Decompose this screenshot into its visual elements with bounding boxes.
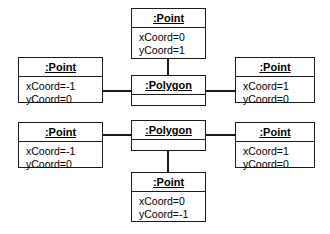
uml-object-attributes: xCoord=-1yCoord=0: [19, 142, 102, 173]
uml-object-name: :Point: [132, 9, 205, 28]
uml-object-name: :Point: [132, 173, 205, 192]
uml-object-attributes: [132, 95, 205, 107]
uml-attribute: xCoord=1: [243, 80, 314, 93]
uml-object-name-text: :Point: [153, 12, 184, 24]
association-link: [205, 134, 236, 136]
uml-object-name-text: :Polygon: [145, 79, 192, 91]
association-link: [102, 134, 132, 136]
association-link: [167, 151, 169, 173]
uml-object-point-top[interactable]: :PointxCoord=0yCoord=1: [131, 8, 206, 59]
uml-object-point-right-lower[interactable]: :PointxCoord=1yCoord=0: [235, 122, 315, 168]
uml-attribute: xCoord=0: [139, 31, 205, 44]
uml-object-diagram: :PointxCoord=0yCoord=1:PointxCoord=-1yCo…: [0, 0, 330, 234]
uml-object-name-text: :Point: [259, 126, 290, 138]
uml-attribute: xCoord=-1: [26, 145, 102, 158]
association-link: [167, 59, 169, 76]
uml-object-point-left-lower[interactable]: :PointxCoord=-1yCoord=0: [18, 122, 103, 168]
uml-object-point-right-upper[interactable]: :PointxCoord=1yCoord=0: [235, 57, 315, 103]
uml-attribute: yCoord=0: [243, 93, 314, 106]
uml-object-name-text: :Polygon: [145, 124, 192, 136]
uml-object-attributes: xCoord=1yCoord=0: [236, 142, 314, 173]
uml-object-name: :Point: [236, 123, 314, 142]
uml-object-name: :Point: [19, 58, 102, 77]
uml-object-polygon-upper[interactable]: :Polygon: [131, 75, 206, 106]
association-link: [102, 90, 132, 92]
uml-attribute: xCoord=0: [139, 195, 205, 208]
uml-object-attributes: xCoord=1yCoord=0: [236, 77, 314, 108]
uml-object-attributes: [132, 140, 205, 152]
uml-attribute: yCoord=0: [26, 93, 102, 106]
uml-attribute: xCoord=-1: [26, 80, 102, 93]
uml-object-point-bottom[interactable]: :PointxCoord=0yCoord=-1: [131, 172, 206, 222]
uml-object-name: :Polygon: [132, 121, 205, 140]
uml-object-name: :Polygon: [132, 76, 205, 95]
association-link: [205, 90, 236, 92]
uml-object-name: :Point: [19, 123, 102, 142]
uml-object-name-text: :Point: [45, 61, 76, 73]
uml-object-name-text: :Point: [45, 126, 76, 138]
uml-attribute: yCoord=0: [243, 158, 314, 171]
uml-attribute: yCoord=0: [26, 158, 102, 171]
uml-object-name: :Point: [236, 58, 314, 77]
uml-object-name-text: :Point: [153, 176, 184, 188]
uml-object-attributes: xCoord=-1yCoord=0: [19, 77, 102, 108]
uml-object-attributes: xCoord=0yCoord=-1: [132, 192, 205, 223]
uml-object-polygon-lower[interactable]: :Polygon: [131, 120, 206, 151]
uml-object-attributes: xCoord=0yCoord=1: [132, 28, 205, 59]
uml-object-point-left-upper[interactable]: :PointxCoord=-1yCoord=0: [18, 57, 103, 103]
uml-attribute: xCoord=1: [243, 145, 314, 158]
uml-object-name-text: :Point: [259, 61, 290, 73]
uml-attribute: yCoord=-1: [139, 208, 205, 221]
uml-attribute: yCoord=1: [139, 44, 205, 57]
